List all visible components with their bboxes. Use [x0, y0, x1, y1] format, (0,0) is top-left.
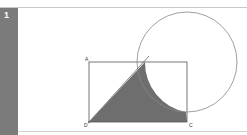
bottom-divider	[18, 131, 247, 132]
geometry-figure: A C D	[0, 0, 247, 135]
label-a: A	[85, 56, 89, 62]
label-c: C	[189, 122, 193, 128]
label-d: D	[84, 122, 88, 128]
point-d	[88, 121, 90, 123]
